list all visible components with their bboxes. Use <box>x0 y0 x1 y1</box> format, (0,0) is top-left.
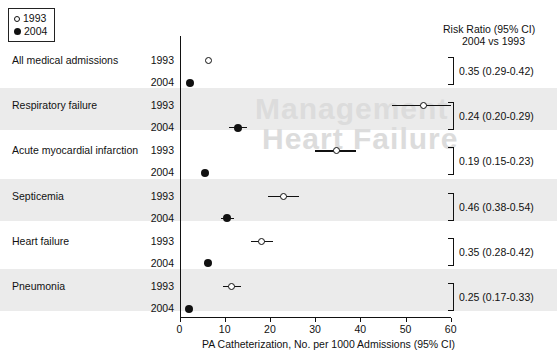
year-label: 1993 <box>146 190 174 202</box>
data-point-2004 <box>185 305 193 313</box>
x-axis-tick <box>180 318 181 322</box>
risk-ratio-header-line2: 2004 vs 1993 <box>462 35 525 47</box>
year-label: 2004 <box>146 76 174 88</box>
x-axis-tick <box>451 318 452 322</box>
category-label: All medical admissions <box>12 54 154 66</box>
x-axis-tick-label: 0 <box>165 323 195 335</box>
x-axis-tick <box>315 318 316 322</box>
data-point-1993 <box>280 193 287 200</box>
x-axis-tick-label: 40 <box>345 323 375 335</box>
year-label: 1993 <box>146 144 174 156</box>
x-axis-tick <box>225 318 226 322</box>
pair-bracket <box>448 147 455 175</box>
open-circle-icon <box>14 16 20 22</box>
year-label: 2004 <box>146 121 174 133</box>
legend-label-2004: 2004 <box>24 25 47 38</box>
pair-bracket <box>448 238 455 266</box>
pair-bracket <box>448 193 455 221</box>
filled-circle-icon <box>14 28 21 35</box>
pair-bracket <box>448 102 455 130</box>
data-point-2004 <box>201 169 209 177</box>
year-label: 2004 <box>146 212 174 224</box>
category-label: Acute myocardial infarction <box>12 144 154 156</box>
category-label: Septicemia <box>12 190 154 202</box>
risk-ratio-value: 0.35 (0.29-0.42) <box>459 65 534 77</box>
x-axis-tick-label: 20 <box>255 323 285 335</box>
pair-bracket <box>448 283 455 311</box>
legend-item-1993: 1993 <box>14 12 47 25</box>
y-axis-line <box>180 36 181 317</box>
data-point-1993 <box>258 238 265 245</box>
year-label: 2004 <box>146 166 174 178</box>
x-axis-tick-label: 60 <box>436 323 466 335</box>
year-label: 1993 <box>146 280 174 292</box>
category-label: Respiratory failure <box>12 99 154 111</box>
year-label: 2004 <box>146 257 174 269</box>
risk-ratio-value: 0.24 (0.20-0.29) <box>459 110 534 122</box>
x-axis-title: PA Catheterization, No. per 1000 Admissi… <box>202 338 455 350</box>
data-point-2004 <box>234 124 242 132</box>
x-axis-tick-label: 30 <box>300 323 330 335</box>
year-label: 1993 <box>146 99 174 111</box>
risk-ratio-value: 0.19 (0.15-0.23) <box>459 155 534 167</box>
year-label: 1993 <box>146 235 174 247</box>
risk-ratio-value: 0.46 (0.38-0.54) <box>459 201 534 213</box>
data-point-2004 <box>204 259 212 267</box>
year-label: 2004 <box>146 302 174 314</box>
legend-label-1993: 1993 <box>23 12 46 25</box>
x-axis-tick <box>406 318 407 322</box>
x-axis-tick <box>360 318 361 322</box>
risk-ratio-header-line1: Risk Ratio (95% CI) <box>443 23 535 35</box>
category-label: Pneumonia <box>12 280 154 292</box>
risk-ratio-value: 0.25 (0.17-0.33) <box>459 291 534 303</box>
legend: 1993 2004 <box>8 8 55 42</box>
x-axis-tick <box>270 318 271 322</box>
category-label: Heart failure <box>12 235 154 247</box>
data-point-2004 <box>186 79 194 87</box>
x-axis-tick-label: 50 <box>391 323 421 335</box>
legend-item-2004: 2004 <box>14 25 47 38</box>
year-label: 1993 <box>146 54 174 66</box>
risk-ratio-value: 0.35 (0.28-0.42) <box>459 246 534 258</box>
pair-bracket <box>448 57 455 85</box>
x-axis-tick-label: 10 <box>210 323 240 335</box>
